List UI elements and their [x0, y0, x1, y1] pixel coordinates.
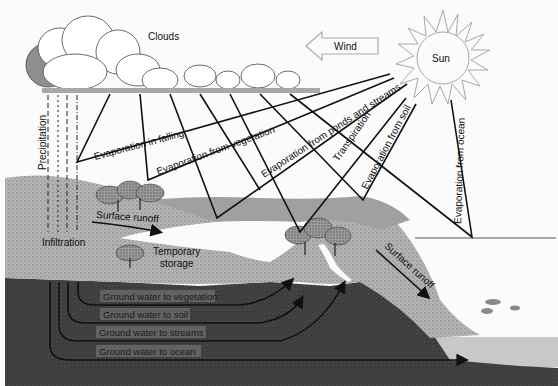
ground-water-to-soil-label: Ground water to soil — [103, 309, 188, 320]
hydrologic-cycle-diagram: Clouds Wind Sun Precipitation Infiltrati… — [0, 0, 558, 386]
clouds — [26, 16, 320, 93]
sun-label: Sun — [432, 53, 450, 64]
temporary-storage-label-line1: Temporary — [153, 246, 200, 257]
evaporation-from-ocean-label: Evaporation from ocean — [452, 118, 467, 224]
evaporation-in-falling-label: Evaporation in falling — [93, 127, 186, 162]
ground-water-to-ocean-label: Ground water to ocean — [99, 346, 196, 357]
ground-water-to-vegetation-label: Ground water to vegetation — [103, 291, 218, 302]
infiltration-label: Infiltration — [42, 237, 85, 248]
clouds-label: Clouds — [148, 31, 179, 42]
wind-label: Wind — [334, 41, 357, 52]
coastal-rocks — [481, 299, 520, 314]
temporary-storage-label-line2: storage — [160, 258, 194, 269]
precipitation-label: Precipitation — [37, 115, 48, 170]
ground-water-to-streams-label: Ground water to streams — [99, 327, 204, 338]
subsurface-ground — [5, 278, 558, 386]
diagram-canvas: Clouds Wind Sun Precipitation Infiltrati… — [0, 0, 558, 386]
